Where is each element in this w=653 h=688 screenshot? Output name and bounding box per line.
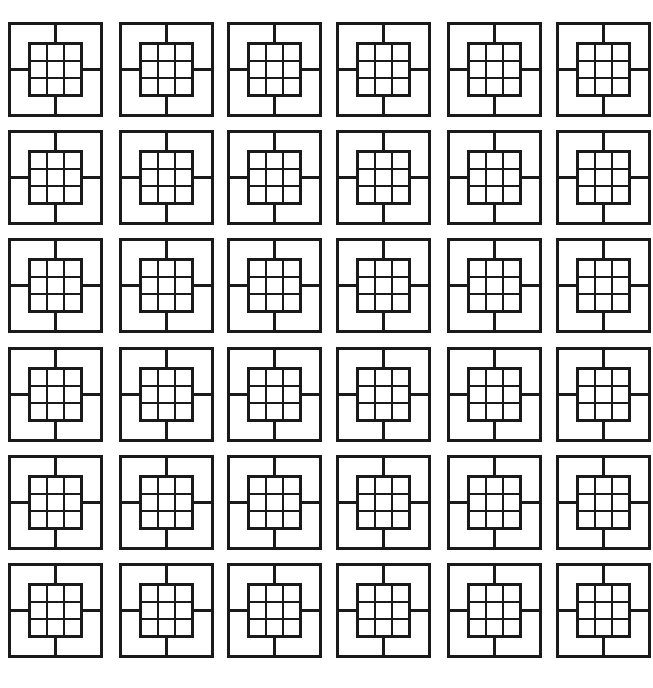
pattern-canvas [0, 0, 653, 688]
pattern-background [0, 0, 653, 688]
